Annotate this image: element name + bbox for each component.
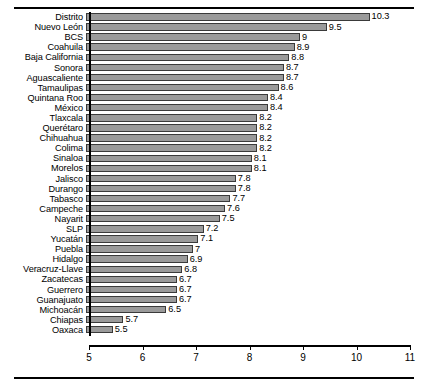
bar [86,134,257,141]
x-axis-tick [89,345,90,350]
bar [86,286,177,293]
bar [86,114,257,121]
bar-track: 8.4 [86,103,427,113]
bar-row: Quintana Roo8.4 [0,93,427,103]
x-axis-tick-label: 7 [184,352,208,364]
bar-value-label: 8.7 [286,72,299,83]
bar-category-label: Michoacán [0,305,86,315]
bar [86,74,284,81]
bar-value-label: 8.1 [254,153,267,164]
bar-track: 7.1 [86,234,427,244]
bar [86,84,279,91]
bar-category-label: Aguascaliente [0,73,86,83]
bar-value-label: 7 [195,244,200,255]
bar-category-label: Yucatán [0,234,86,244]
x-axis-tick-label: 6 [131,352,155,364]
bar [86,104,268,111]
bar-row: BCS9 [0,32,427,42]
bar-chart-plot-area: Distrito10.3Nuevo León9.5BCS9Coahuila8.9… [0,12,427,344]
bar-row: Colima8.2 [0,143,427,153]
bar-row: Tabasco7.7 [0,194,427,204]
bar-row: Guanajuato6.7 [0,295,427,305]
bar-category-label: Sinaloa [0,153,86,163]
bar-value-label: 5.5 [115,324,128,335]
bar-value-label: 8.9 [297,42,310,53]
x-axis-tick-label: 10 [345,352,369,364]
bar-value-label: 8.2 [259,133,272,144]
x-axis-tick [357,345,358,350]
bar-value-label: 8.4 [270,102,283,113]
bar-value-label: 7.5 [222,213,235,224]
bar-row: Campeche7.6 [0,204,427,214]
bar-row: Nuevo León9.5 [0,22,427,32]
bar-row: Aguascaliente8.7 [0,73,427,83]
bar-track: 8.9 [86,42,427,52]
bar-category-label: Baja California [0,52,86,62]
bar-row: Morelos8.1 [0,163,427,173]
bar-category-label: Durango [0,184,86,194]
bar [86,266,182,273]
x-axis-tick [196,345,197,350]
bar-value-label: 8.2 [259,112,272,123]
bar-track: 9.5 [86,22,427,32]
clipped-caption [16,0,412,1]
bar-category-label: Quintana Roo [0,93,86,103]
bar-category-label: Tlaxcala [0,113,86,123]
bar-value-label: 10.3 [372,11,390,22]
bar-category-label: Oaxaca [0,325,86,335]
bar-track: 7 [86,244,427,254]
bar-category-label: Guerrero [0,285,86,295]
bar-track: 7.6 [86,204,427,214]
bar [86,306,166,313]
bar-value-label: 7.7 [232,193,245,204]
bar [86,225,204,232]
bar-track: 6.8 [86,264,427,274]
bar-track: 8.2 [86,133,427,143]
bar-track: 8.2 [86,123,427,133]
bar-value-label: 9 [302,32,307,43]
bar-category-label: México [0,103,86,113]
bar [86,195,230,202]
bar-row: SLP7.2 [0,224,427,234]
bar-category-label: Veracruz-Llave [0,264,86,274]
bar-track: 8.6 [86,83,427,93]
bar-track: 7.8 [86,184,427,194]
bar-category-label: Coahuila [0,42,86,52]
bar [86,144,257,151]
bar-row: Distrito10.3 [0,12,427,22]
bar-row: Michoacán6.5 [0,305,427,315]
bar-category-label: Querétaro [0,123,86,133]
bar [86,296,177,303]
bar-value-label: 8.1 [254,163,267,174]
bar-category-label: Nayarit [0,214,86,224]
x-axis-tick-label: 8 [238,352,262,364]
bar-value-label: 9.5 [329,22,342,33]
bar-value-label: 8.8 [291,52,304,63]
bar [86,276,177,283]
bar-category-label: Colima [0,143,86,153]
bar-value-label: 6.7 [179,274,192,285]
bar-track: 8.1 [86,163,427,173]
bar [86,185,236,192]
bar-value-label: 8.4 [270,92,283,103]
bar-value-label: 6.7 [179,294,192,305]
bar-value-label: 6.5 [168,304,181,315]
bar-category-label: Zacatecas [0,274,86,284]
bar-category-label: Tamaulipas [0,83,86,93]
bar-track: 5.5 [86,325,427,335]
bar-category-label: Distrito [0,12,86,22]
bar-track: 8.7 [86,73,427,83]
bar [86,33,300,40]
bar-row: México8.4 [0,103,427,113]
bar-value-label: 8.2 [259,143,272,154]
bar-track: 7.7 [86,194,427,204]
bar-value-label: 5.7 [125,314,138,325]
bar [86,43,295,50]
bar-row: Yucatán7.1 [0,234,427,244]
bar-category-label: Jalisco [0,174,86,184]
figure-bottom-rule [14,377,414,379]
bar-track: 6.9 [86,254,427,264]
bar-category-label: Tabasco [0,194,86,204]
bar-row: Chihuahua8.2 [0,133,427,143]
bar-value-label: 8.2 [259,122,272,133]
